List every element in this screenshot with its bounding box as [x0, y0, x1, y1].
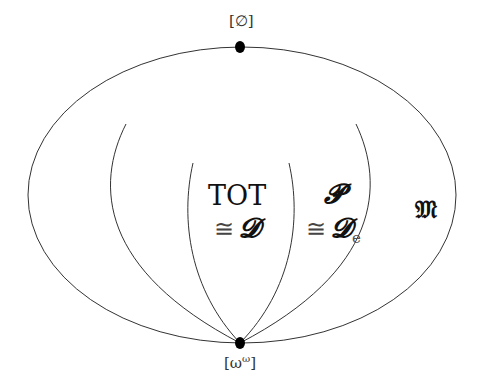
- subscript-e: e: [352, 229, 361, 247]
- tot-cong-d: ≅ 𝓓: [214, 212, 260, 244]
- p-label: 𝓟: [324, 178, 343, 210]
- bottom-point: [235, 337, 245, 349]
- bottom-point-label: [ωω]: [224, 353, 256, 372]
- top-point: [235, 41, 245, 53]
- congruence-symbol: ≅: [214, 215, 234, 243]
- top-point-label: [∅]: [229, 12, 254, 30]
- omega-base: ω: [230, 354, 242, 372]
- congruence-symbol: ≅: [306, 215, 326, 243]
- d-symbol: 𝓓: [331, 212, 352, 243]
- m-label: 𝔐: [415, 195, 437, 224]
- p-cong-de: ≅ 𝓓e: [306, 212, 361, 247]
- omega-exponent: ω: [242, 353, 250, 364]
- degree-structure-d: 𝓓: [239, 212, 260, 243]
- tot-label: TOT: [208, 180, 266, 211]
- degree-structure-de: 𝓓e: [331, 212, 361, 243]
